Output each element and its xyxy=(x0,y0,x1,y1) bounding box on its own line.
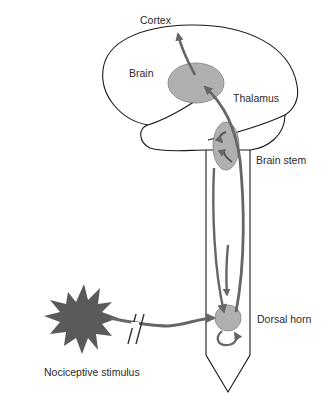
label-thalamus: Thalamus xyxy=(233,93,279,104)
label-dorsal-horn: Dorsal horn xyxy=(257,314,311,325)
descending-pathway-left xyxy=(213,168,224,312)
nociceptive-stimulus-starburst xyxy=(44,284,118,354)
label-cortex: Cortex xyxy=(140,15,171,26)
label-nociceptive-stimulus: Nociceptive stimulus xyxy=(44,367,140,378)
afferent-fiber-arrow xyxy=(110,318,214,326)
dorsal-horn-loop-arrow xyxy=(218,331,237,345)
label-brain: Brain xyxy=(129,68,154,79)
label-brain-stem: Brain stem xyxy=(256,155,306,166)
descending-pathway-arrow xyxy=(226,245,228,295)
pain-pathway-diagram: Cortex Brain Thalamus Brain stem Dorsal … xyxy=(0,0,332,403)
brain-stem-region xyxy=(213,122,239,170)
diagram-canvas xyxy=(0,0,332,403)
fiber-break-marks xyxy=(128,314,144,344)
